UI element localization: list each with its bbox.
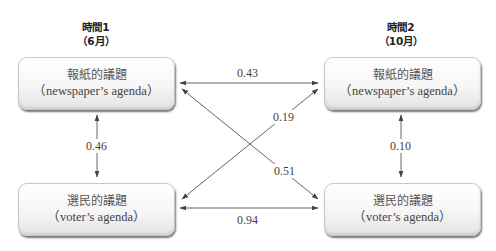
coef-0-43: 0.43: [236, 66, 259, 80]
cross-lagged-correlation-diagram: 時間1 （6月） 時間2 （10月） 報紙的議題 （newspaper’s ag…: [0, 0, 496, 251]
node-label-en: （voter’s agenda）: [325, 209, 480, 225]
coef-0-94: 0.94: [236, 213, 259, 227]
coef-0-51: 0.51: [273, 164, 296, 178]
node-label-en: （newspaper’s agenda）: [325, 83, 480, 99]
node-t2-newspaper-agenda: 報紙的議題 （newspaper’s agenda）: [324, 57, 481, 110]
node-t2-voter-agenda: 選民的議題 （voter’s agenda）: [324, 183, 481, 236]
node-t1-newspaper-agenda: 報紙的議題 （newspaper’s agenda）: [18, 57, 175, 110]
node-label-zh: 報紙的議題: [325, 67, 480, 83]
coef-0-10: 0.10: [389, 139, 412, 153]
node-label-zh: 報紙的議題: [19, 67, 174, 83]
coef-0-46: 0.46: [85, 139, 108, 153]
node-label-en: （voter’s agenda）: [19, 209, 174, 225]
node-label-zh: 選民的議題: [325, 193, 480, 209]
node-label-en: （newspaper’s agenda）: [19, 83, 174, 99]
node-t1-voter-agenda: 選民的議題 （voter’s agenda）: [18, 183, 175, 236]
coef-0-19: 0.19: [272, 110, 295, 124]
node-label-zh: 選民的議題: [19, 193, 174, 209]
